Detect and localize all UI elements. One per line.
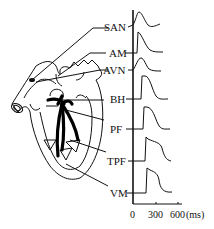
action-potential-traces	[133, 12, 172, 193]
trace-avn	[133, 58, 161, 71]
label-tpf: TPF	[107, 155, 126, 167]
trace-am	[133, 32, 163, 53]
trace-san	[133, 12, 160, 27]
trace-pf	[133, 107, 170, 129]
label-san: SAN	[104, 21, 126, 33]
label-bh: BH	[110, 93, 125, 105]
label-avn: AVN	[103, 64, 125, 76]
cardiac-action-potential-diagram: SAN AM AVN BH PF TPF VM 0 300 600	[0, 0, 214, 229]
axis-tick-labels: 0 300 600 (ms)	[130, 209, 204, 221]
trace-vm	[133, 168, 172, 193]
trace-tpf	[133, 137, 171, 161]
tick-600: 600	[170, 209, 185, 220]
axis-unit: (ms)	[186, 209, 204, 221]
label-pf: PF	[110, 123, 122, 135]
tick-0: 0	[130, 209, 135, 220]
label-am: AM	[109, 47, 127, 59]
label-vm: VM	[110, 187, 128, 199]
leader-lines	[32, 28, 108, 186]
tick-300: 300	[148, 209, 163, 220]
structure-labels: SAN AM AVN BH PF TPF VM	[103, 21, 128, 199]
trace-bh	[133, 76, 168, 99]
